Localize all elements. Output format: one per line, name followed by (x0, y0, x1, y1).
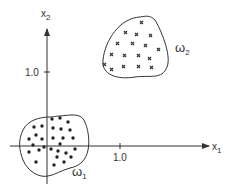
cross-marker (110, 53, 113, 56)
cross-marker (110, 68, 113, 71)
class-omega-1-label: ω1 (72, 164, 87, 181)
x1-tick-label: 1.0 (113, 152, 127, 163)
cross-marker (123, 54, 126, 57)
cross-marker (122, 65, 125, 68)
cross-marker (144, 44, 147, 47)
cross-marker (157, 48, 160, 51)
x1-axis-label: x1 (212, 141, 222, 155)
class-omega-2-label: ω2 (175, 40, 190, 57)
cross-marker (116, 42, 119, 45)
cross-marker (150, 66, 153, 69)
class-omega-2-points (103, 21, 160, 71)
cross-marker (140, 21, 143, 24)
cross-marker (148, 57, 151, 60)
x2-axis-label: x2 (41, 8, 51, 22)
cross-marker (124, 31, 127, 34)
diagram-canvas: x2 1.0 1.0 x1 ω2 ω1 (0, 0, 229, 188)
cross-marker (137, 54, 140, 57)
x2-tick-label: 1.0 (25, 67, 39, 78)
cross-marker (135, 33, 138, 36)
cross-marker (137, 65, 140, 68)
cross-marker (149, 34, 152, 37)
cross-marker (131, 42, 134, 45)
class-omega-1-points (27, 116, 76, 166)
